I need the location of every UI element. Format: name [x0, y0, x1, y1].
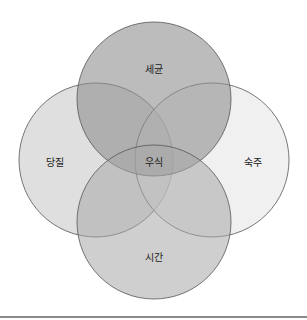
label-top-bacteria: 세균 — [145, 64, 163, 75]
label-right-host: 숙주 — [244, 157, 262, 168]
label-left-sugar: 당질 — [46, 157, 64, 168]
label-center-caries: 우식 — [145, 157, 163, 168]
venn-diagram: 세균 당질 우식 숙주 시간 — [0, 0, 307, 310]
circle-bottom-time — [77, 145, 231, 299]
bottom-divider — [0, 316, 307, 318]
label-bottom-time: 시간 — [145, 252, 163, 263]
